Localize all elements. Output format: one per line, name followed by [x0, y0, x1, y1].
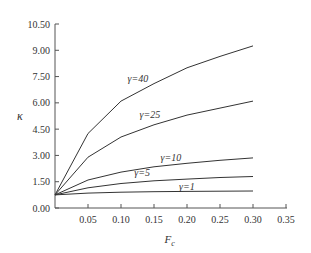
series-label: γ=1 — [179, 181, 195, 192]
y-tick-label: 9.00 — [33, 45, 51, 56]
x-axis-label: Fc — [164, 233, 176, 248]
line-chart: 0.001.503.004.506.007.509.0010.500.050.1… — [0, 0, 311, 253]
y-tick-label: 6.00 — [33, 97, 51, 108]
series-line — [55, 158, 253, 195]
x-tick-label: 0.10 — [112, 214, 130, 225]
x-tick-label: 0.30 — [244, 214, 262, 225]
series-labels: γ=40γ=25γ=10γ=5γ=1 — [128, 73, 195, 192]
y-tick-label: 7.50 — [33, 71, 51, 82]
x-tick-label: 0.20 — [178, 214, 196, 225]
series-label: γ=10 — [161, 152, 182, 163]
y-tick-label: 3.00 — [33, 150, 51, 161]
y-tick-label: 1.50 — [33, 176, 51, 187]
axes: 0.001.503.004.506.007.509.0010.500.050.1… — [17, 19, 295, 249]
x-tick-label: 0.15 — [145, 214, 163, 225]
x-tick-label: 0.05 — [79, 214, 97, 225]
series-line — [55, 191, 253, 195]
x-tick-label: 0.25 — [211, 214, 229, 225]
series-label: γ=40 — [128, 73, 149, 84]
series-lines — [55, 46, 253, 195]
series-label: γ=25 — [139, 109, 160, 120]
series-label: γ=5 — [134, 167, 150, 178]
y-tick-label: 0.00 — [33, 203, 51, 214]
series-line — [55, 46, 253, 195]
x-tick-label: 0.35 — [277, 214, 295, 225]
y-tick-label: 10.50 — [28, 19, 51, 30]
y-axis-label: κ — [17, 109, 23, 123]
y-tick-label: 4.50 — [33, 124, 51, 135]
